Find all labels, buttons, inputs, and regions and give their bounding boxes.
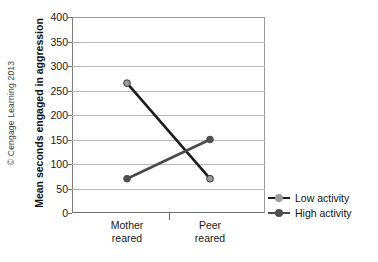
y-axis-tick-label: 100 xyxy=(40,158,68,170)
y-axis-tick-label: 200 xyxy=(40,109,68,121)
plot-area xyxy=(72,17,265,213)
legend-item: High activity xyxy=(268,205,376,220)
y-axis-tick-label: 0 xyxy=(40,207,68,219)
y-axis-tick-label: 400 xyxy=(40,11,68,23)
data-point-marker xyxy=(124,175,131,182)
x-axis-tick-label-line: Mother xyxy=(82,219,172,232)
y-axis-tick-label: 350 xyxy=(40,36,68,48)
y-axis-tick-label: 250 xyxy=(40,85,68,97)
series-line xyxy=(127,140,210,179)
data-point-marker xyxy=(124,80,131,87)
x-axis-tick-label-line: reared xyxy=(82,232,172,245)
x-axis-tick-label: Motherreared xyxy=(82,219,172,244)
x-axis-tick-label-line: reared xyxy=(165,232,255,245)
x-axis-tick-label-line: Peer xyxy=(165,219,255,232)
y-axis-tick-label: 150 xyxy=(40,134,68,146)
legend-label: High activity xyxy=(295,207,352,219)
copyright-credit: © Cengage Learning 2013 xyxy=(6,58,16,168)
chart-legend: Low activityHigh activity xyxy=(268,190,376,220)
legend-marker-icon xyxy=(268,193,290,203)
data-point-marker xyxy=(207,136,214,143)
legend-item: Low activity xyxy=(268,190,376,205)
y-axis-tick-label: 50 xyxy=(40,183,68,195)
aggression-line-chart-figure: © Cengage Learning 2013 Mean seconds eng… xyxy=(0,0,378,262)
data-series-layer xyxy=(72,17,265,213)
legend-marker-icon xyxy=(268,208,290,218)
x-axis-tick-label: Peerreared xyxy=(165,219,255,244)
y-axis-tick-labels: 050100150200250300350400 xyxy=(40,0,68,262)
series-line xyxy=(127,83,210,179)
y-axis-tick-mark xyxy=(67,213,72,214)
legend-label: Low activity xyxy=(295,192,349,204)
data-point-marker xyxy=(207,175,214,182)
y-axis-tick-label: 300 xyxy=(40,60,68,72)
